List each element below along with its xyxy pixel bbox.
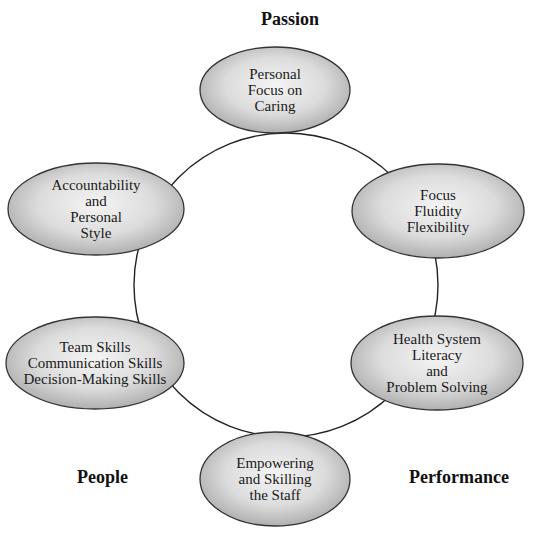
node-label-line: and Skilling [236,471,313,487]
node-label-line: Caring [248,98,303,114]
node-label-line: the Staff [236,487,313,503]
node-label-line: Communication Skills [24,355,167,371]
node-label-line: Empowering [236,455,313,471]
node-label-line: Fluidity [407,203,470,219]
node-label-upper-left: AccountabilityandPersonalStyle [51,177,140,241]
node-label-line: Team Skills [24,339,167,355]
node-label-line: Literacy [386,347,487,363]
node-label-top: PersonalFocus onCaring [248,66,303,114]
label-people: People [77,468,128,486]
node-label-line: Health System [386,331,487,347]
node-label-lower-left: Team SkillsCommunication SkillsDecision-… [24,339,167,387]
node-label-line: and [51,193,140,209]
node-label-line: Problem Solving [386,379,487,395]
node-label-line: Personal [248,66,303,82]
node-label-lower-right: Health SystemLiteracyandProblem Solving [386,331,487,395]
node-label-bottom: Empoweringand Skillingthe Staff [236,455,313,503]
node-label-line: and [386,363,487,379]
node-label-line: Focus [407,187,470,203]
node-label-line: Accountability [51,177,140,193]
node-label-line: Flexibility [407,219,470,235]
label-performance: Performance [409,468,509,486]
label-passion: Passion [261,10,319,28]
node-label-line: Style [51,225,140,241]
node-label-line: Decision-Making Skills [24,371,167,387]
node-label-upper-right: FocusFluidityFlexibility [407,187,470,235]
node-label-line: Focus on [248,82,303,98]
node-label-line: Personal [51,209,140,225]
